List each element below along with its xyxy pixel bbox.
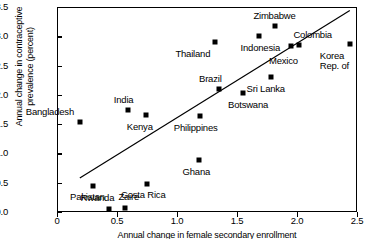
data-point-marker [91,183,96,188]
data-point-label: Bangladesh [26,107,74,117]
data-point-marker [213,39,218,44]
data-point-label: Indonesia [241,43,280,53]
data-point-label: Brazil [199,74,222,84]
data-point-marker [125,108,130,113]
data-point-label: Ghana [183,167,211,177]
data-point-label: Colombia [293,30,332,40]
data-point-marker [197,113,202,118]
data-point-marker [145,181,150,186]
data-point-label: India [114,95,134,105]
data-point-marker [268,74,273,79]
data-point-label: Mexico [269,56,298,66]
data-point-label: Zimbabwe [253,11,295,21]
data-point-marker [241,90,246,95]
data-point-marker [196,158,201,163]
data-point-marker [106,207,111,212]
data-point-marker [297,43,302,48]
data-point-label: Korea Rep. of [320,51,349,71]
data-point-marker [273,24,278,29]
data-point-label: Botswana [228,100,268,110]
data-point-marker [289,44,294,49]
data-point-label: Rwanda [81,193,115,203]
data-point-label: Thailand [175,49,210,59]
data-point-marker [77,119,82,124]
data-point-marker [143,113,148,118]
data-point-label: Sri Lanka [247,84,285,94]
data-point-marker [123,205,128,210]
data-point-label: Philippines [174,123,218,133]
data-point-label: Costa Rica [121,190,165,200]
data-point-label: Kenya [127,122,153,132]
scatter-chart: Annual change in contraceptive prevalenc… [0,0,368,239]
data-point-marker [217,87,222,92]
data-point-marker [256,33,261,38]
data-point-marker [347,41,352,46]
